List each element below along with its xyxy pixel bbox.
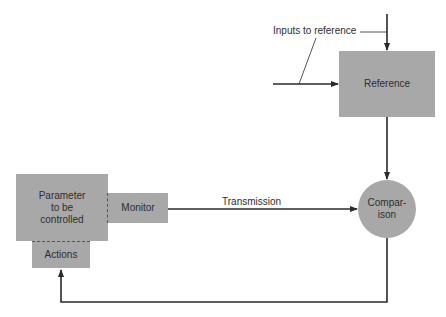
- inputs-to-reference-label: Inputs to reference: [273, 25, 356, 37]
- parameter-actions-dashed-divider: [32, 241, 90, 242]
- comparison-node: Compar- ison: [358, 180, 416, 238]
- reference-node: Reference: [339, 51, 435, 117]
- inputs-leader-diagonal: [299, 38, 316, 84]
- reference-label: Reference: [364, 78, 410, 90]
- parameter-label-line2: to be: [39, 202, 86, 214]
- parameter-label-line1: Parameter: [39, 190, 86, 202]
- parameter-node: Parameter to be controlled: [16, 174, 108, 241]
- parameter-monitor-dashed-divider: [107, 193, 108, 223]
- monitor-label: Monitor: [121, 202, 154, 214]
- comparison-label-line1: Compar-: [368, 197, 407, 209]
- monitor-node: Monitor: [108, 193, 168, 223]
- transmission-label: Transmission: [222, 196, 281, 208]
- actions-label: Actions: [45, 249, 78, 261]
- comparison-label-line2: ison: [368, 209, 407, 221]
- actions-node: Actions: [32, 241, 90, 268]
- diagram-canvas: [0, 0, 446, 317]
- feedback-arrow: [61, 238, 387, 302]
- parameter-label-line3: controlled: [39, 214, 86, 226]
